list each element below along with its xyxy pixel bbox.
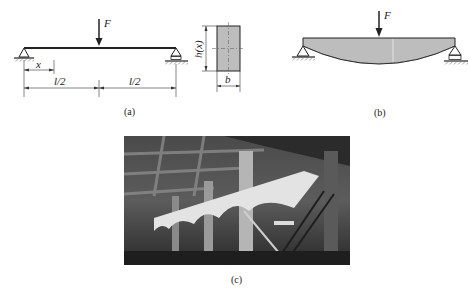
half-span-right-label: l/2 bbox=[129, 75, 141, 87]
width-label: b bbox=[225, 73, 231, 85]
x-label: x bbox=[35, 58, 41, 70]
height-label: h(x) bbox=[192, 40, 205, 58]
span-dimension bbox=[24, 87, 176, 90]
cross-section: h(x) b bbox=[192, 22, 245, 92]
half-span-left-label: l/2 bbox=[54, 75, 66, 87]
caption-b: (b) bbox=[374, 107, 386, 119]
caption-c: (c) bbox=[231, 274, 242, 286]
beam-photograph bbox=[124, 136, 350, 265]
fish-belly-beam-shape bbox=[303, 38, 455, 64]
force-label: F bbox=[103, 17, 111, 29]
pin-support-icon bbox=[14, 48, 34, 62]
force-label-b: F bbox=[383, 9, 391, 21]
caption-a: (a) bbox=[124, 106, 135, 118]
roller-support-icon bbox=[165, 48, 188, 65]
force-arrow-icon bbox=[376, 11, 383, 37]
photo-rendering bbox=[124, 136, 350, 265]
force-arrow-icon bbox=[96, 19, 103, 46]
panel-a-beam-diagram: F x bbox=[14, 17, 188, 118]
panel-b-fish-belly-beam: F (b) bbox=[292, 9, 468, 119]
